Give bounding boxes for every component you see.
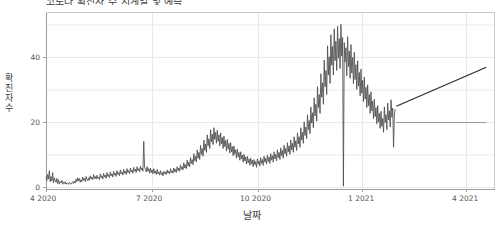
y-tick-label-40: 40 bbox=[14, 53, 40, 62]
y-tick-label-20: 20 bbox=[14, 118, 40, 127]
x-axis-title: 날짜 bbox=[0, 207, 504, 222]
y-axis-title-char: 자 bbox=[3, 93, 15, 103]
axis-lines bbox=[46, 12, 495, 190]
x-tick-label-4-2021: 4 2021 bbox=[452, 194, 478, 203]
forecast-trend-line bbox=[396, 67, 486, 106]
grid-lines bbox=[46, 12, 495, 188]
y-axis-title: 확진자 수 bbox=[3, 73, 15, 113]
confirmed-cases-line bbox=[46, 24, 395, 186]
line-chart-plot bbox=[0, 0, 504, 227]
y-axis-title-char: 확 bbox=[3, 73, 15, 83]
y-axis-title-char: 수 bbox=[3, 103, 15, 113]
y-tick-label-0: 0 bbox=[14, 183, 40, 192]
y-tick-marks bbox=[43, 58, 46, 188]
x-tick-label-10-2020: 10 2020 bbox=[240, 194, 271, 203]
y-axis-title-char: 진 bbox=[3, 83, 15, 93]
x-tick-label-1-2021: 1 2021 bbox=[348, 194, 374, 203]
chart-screenshot: 코로나 확진자 수 시계열 및 예측 bbox=[0, 0, 504, 227]
x-tick-label-4-2020: 4 2020 bbox=[30, 194, 56, 203]
x-tick-label-7-2020: 7 2020 bbox=[136, 194, 162, 203]
